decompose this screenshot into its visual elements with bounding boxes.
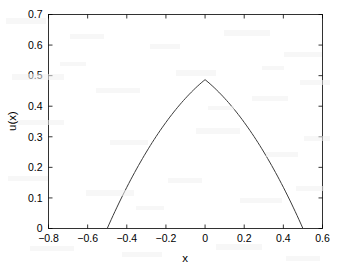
y-axis-label: u(x) <box>6 111 18 131</box>
y-axis-tick-labels: 00.10.20.30.40.50.60.7 <box>28 8 43 234</box>
y-tick-label: 0.6 <box>28 39 43 51</box>
x-tick-label: −0.6 <box>77 232 98 244</box>
y-tick-label: 0.2 <box>28 161 43 173</box>
x-tick-label: −0.2 <box>156 232 177 244</box>
x-tick-label: −0.4 <box>116 232 137 244</box>
chart-plot: −0.8−0.6−0.4−0.200.20.40.6 00.10.20.30.4… <box>0 0 342 272</box>
y-tick-label: 0 <box>37 222 43 234</box>
x-tick-label: 0 <box>202 232 208 244</box>
y-tick-label: 0.1 <box>28 192 43 204</box>
x-tick-label: 0.4 <box>276 232 291 244</box>
x-axis-ticks <box>49 15 323 229</box>
x-tick-label: 0.6 <box>315 232 330 244</box>
y-tick-label: 0.7 <box>28 8 43 20</box>
x-axis-label: x <box>182 252 188 264</box>
y-axis-ticks <box>49 15 323 229</box>
x-axis-tick-labels: −0.8−0.6−0.4−0.200.20.40.6 <box>38 232 330 244</box>
x-tick-label: 0.2 <box>237 232 252 244</box>
data-curve-u-of-x <box>107 80 303 229</box>
figure-canvas: −0.8−0.6−0.4−0.200.20.40.6 00.10.20.30.4… <box>0 0 342 272</box>
y-tick-label: 0.3 <box>28 131 43 143</box>
y-tick-label: 0.4 <box>28 100 43 112</box>
axes-box <box>49 15 323 229</box>
y-tick-label: 0.5 <box>28 69 43 81</box>
